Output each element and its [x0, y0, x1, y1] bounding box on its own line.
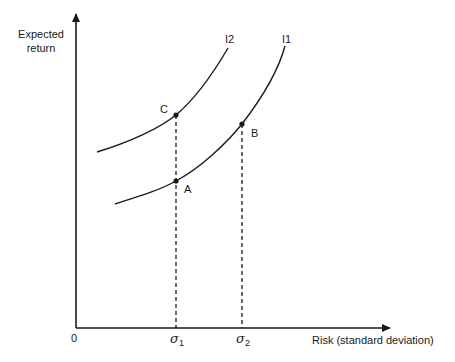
indifference-curve-i1: [115, 46, 285, 204]
point-label-a: A: [184, 183, 192, 195]
indifference-curve-diagram: Expected return Risk (standard deviation…: [0, 0, 455, 362]
point-c: [173, 112, 178, 117]
point-label-c: C: [160, 103, 168, 115]
y-axis-label-line1: Expected: [18, 28, 64, 40]
y-axis-label-line2: return: [27, 42, 56, 54]
tick-label-sigma1: σ1: [170, 331, 184, 348]
tick-label-sigma2: σ2: [236, 331, 250, 348]
point-b: [239, 121, 244, 126]
curve-label-i1: I1: [282, 33, 291, 45]
x-axis-label: Risk (standard deviation): [312, 334, 434, 346]
origin-label: 0: [71, 332, 77, 344]
indifference-curve-i2: [97, 48, 228, 152]
point-label-b: B: [251, 127, 258, 139]
point-a: [173, 178, 178, 183]
curve-label-i2: I2: [225, 33, 234, 45]
